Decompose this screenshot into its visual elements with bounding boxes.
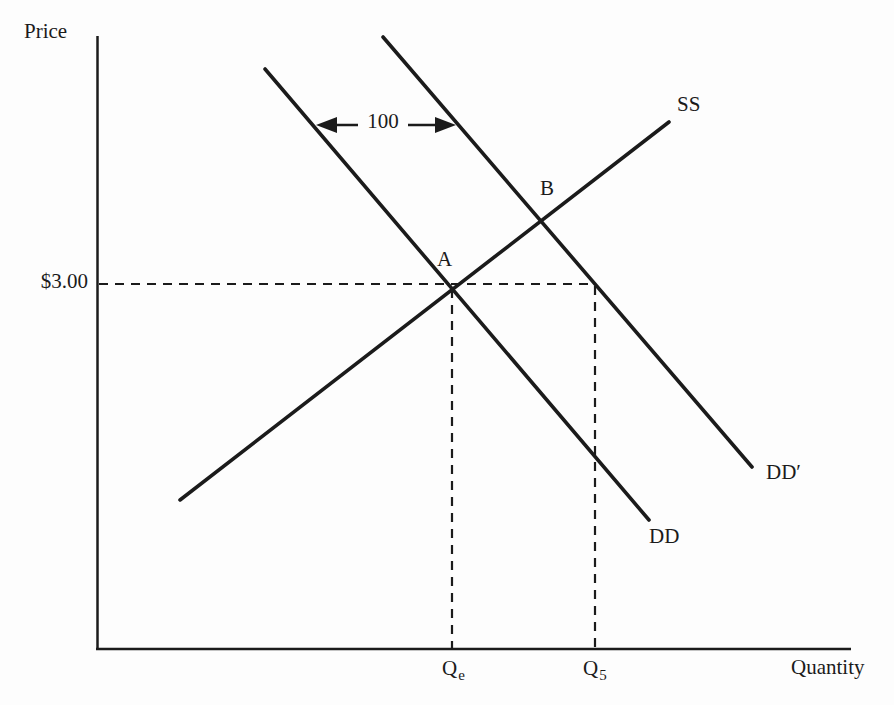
q5-tick-label: Q5: [583, 657, 607, 680]
qe-base: Q: [442, 656, 457, 680]
x-axis-label: Quantity: [791, 656, 865, 679]
y-axis-label: Price: [24, 20, 67, 43]
demand-shifted-curve-label: DD′: [766, 461, 801, 484]
price-value-label: $3.00: [26, 270, 88, 293]
supply-curve-label: SS: [677, 93, 700, 116]
qe-subscript: e: [458, 667, 465, 683]
diagram-canvas: [0, 0, 894, 705]
shift-amount-label: 100: [358, 110, 408, 133]
demand-curve-label: DD: [649, 525, 679, 548]
point-b-label: B: [540, 177, 554, 200]
q5-base: Q: [583, 656, 598, 680]
qe-tick-label: Qe: [442, 657, 465, 680]
point-a-label: A: [437, 248, 452, 271]
q5-subscript: 5: [599, 667, 607, 683]
demand-curve-dd: [265, 69, 649, 520]
supply-demand-diagram: Price Quantity $3.00 A B SS DD DD′ 100 Q…: [0, 0, 894, 705]
